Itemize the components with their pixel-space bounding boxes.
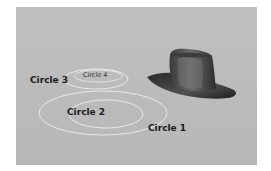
hat-model[interactable] xyxy=(147,49,236,99)
scene-canvas xyxy=(0,0,271,171)
circle-1-label: Circle 1 xyxy=(148,124,186,133)
circle-3-label: Circle 3 xyxy=(30,76,68,85)
circle-2-label: Circle 2 xyxy=(67,108,105,117)
circle-4-label: Circle 4 xyxy=(83,72,107,79)
